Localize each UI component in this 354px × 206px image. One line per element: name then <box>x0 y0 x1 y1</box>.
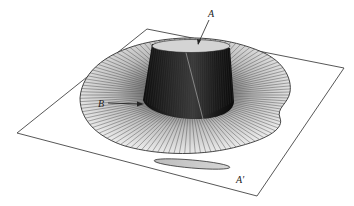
label-a-prime: A′ <box>235 174 245 185</box>
label-b: B <box>98 98 104 109</box>
cylinder-top <box>152 40 230 53</box>
dark-cylinder <box>143 40 234 120</box>
diagram-canvas: A B A′ <box>0 0 354 206</box>
label-a: A <box>207 8 215 19</box>
